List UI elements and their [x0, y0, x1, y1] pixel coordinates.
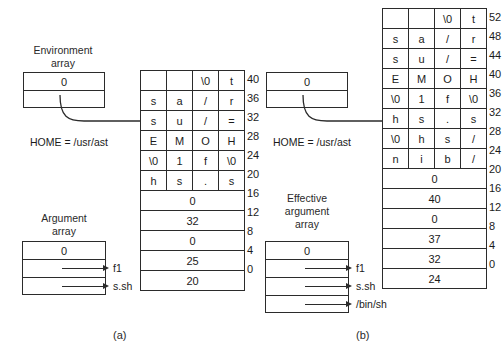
mem-char-cell: a	[409, 29, 435, 49]
offset-value: 28	[489, 122, 501, 141]
mem-char-cell: \0	[193, 71, 219, 91]
mem-char-cell: s	[167, 171, 193, 191]
mem-char-cell: E	[383, 69, 409, 89]
mem-char-cell: /	[435, 49, 461, 69]
arg-pointer-line-f1-a	[62, 268, 103, 269]
offset-value: 28	[247, 127, 259, 146]
figure-label-b: (b)	[356, 329, 369, 341]
mem-char-cell: t	[461, 9, 487, 29]
eff-arg-array-cell[interactable]: 0	[266, 242, 348, 260]
mem-char-cell: r	[219, 91, 245, 111]
mem-word-cell: 20	[141, 271, 245, 291]
mem-char-cell	[141, 71, 167, 91]
mem-char-cell: h	[409, 129, 435, 149]
offset-value: 0	[489, 255, 501, 274]
mem-word-cell: 0	[383, 209, 487, 229]
mem-char-cell: b	[435, 149, 461, 169]
figure-label-a: (a)	[113, 329, 126, 341]
mem-char-cell: .	[193, 171, 219, 191]
table-row: 40	[383, 189, 487, 209]
eff-arg-pointer-line-ssh-b	[305, 286, 346, 287]
eff-arg-pointer-arrowhead-f1-b	[346, 265, 352, 271]
table-row: E M O H	[383, 69, 487, 89]
mem-word-cell: 24	[383, 269, 487, 289]
mem-char-cell: \0	[219, 151, 245, 171]
mem-char-cell: H	[461, 69, 487, 89]
mem-char-cell: =	[219, 111, 245, 131]
mem-word-cell: 0	[383, 169, 487, 189]
arg-array-cell[interactable]	[23, 278, 105, 296]
table-row: s u / =	[141, 111, 245, 131]
mem-char-cell: u	[409, 49, 435, 69]
offset-value: 12	[247, 203, 259, 222]
mem-word-cell: 0	[141, 191, 245, 211]
mem-word-cell: 37	[383, 229, 487, 249]
mem-char-cell: /	[461, 129, 487, 149]
mem-char-cell: M	[409, 69, 435, 89]
offset-value: 24	[247, 146, 259, 165]
arg-array-cell[interactable]: 0	[23, 242, 105, 260]
mem-char-cell: i	[409, 149, 435, 169]
table-row: 0	[383, 169, 487, 189]
mem-char-cell: n	[383, 149, 409, 169]
eff-arg-pointer-arrowhead-binsh-b	[346, 301, 352, 307]
table-row: 37	[383, 229, 487, 249]
table-row: n i b /	[383, 149, 487, 169]
mem-char-cell: s	[409, 109, 435, 129]
env-pointer-label-a: HOME = /usr/ast	[30, 136, 108, 148]
mem-char-cell	[383, 9, 409, 29]
table-row: E M O H	[141, 131, 245, 151]
mem-char-cell: 1	[167, 151, 193, 171]
mem-char-cell: \0	[383, 89, 409, 109]
mem-char-cell: H	[219, 131, 245, 151]
eff-arg-array-cell[interactable]	[266, 260, 348, 278]
mem-char-cell: .	[435, 109, 461, 129]
offset-value: 8	[247, 222, 259, 241]
arg-array-title-a: Argument array	[22, 212, 106, 238]
env-array-cell[interactable]: 0	[24, 73, 104, 91]
offset-value: 8	[489, 217, 501, 236]
table-row: 32	[383, 249, 487, 269]
arg-pointer-label-f1-a: f1	[113, 262, 122, 274]
mem-char-cell: /	[193, 91, 219, 111]
offset-value: 16	[247, 184, 259, 203]
env-array-cell[interactable]: 0	[267, 73, 347, 91]
arg-pointer-label-ssh-a: s.sh	[113, 280, 132, 292]
table-row: 0	[141, 231, 245, 251]
memory-table-b-body: \0 t s a / r s u / = E M O H \0 1 f \0 h	[383, 9, 487, 289]
offset-value: 36	[489, 84, 501, 103]
mem-char-cell: M	[167, 131, 193, 151]
mem-char-cell: h	[141, 171, 167, 191]
arg-pointer-arrowhead-f1-a	[103, 265, 109, 271]
mem-char-cell: s	[141, 111, 167, 131]
eff-arg-pointer-label-binsh-b: /bin/sh	[356, 298, 387, 310]
mem-char-cell: f	[435, 89, 461, 109]
table-row: 0	[141, 191, 245, 211]
offset-value: 40	[489, 65, 501, 84]
offset-value: 32	[247, 108, 259, 127]
mem-char-cell: \0	[141, 151, 167, 171]
table-row: s u / =	[383, 49, 487, 69]
eff-arg-pointer-line-f1-b	[305, 268, 346, 269]
mem-char-cell: 1	[409, 89, 435, 109]
mem-char-cell: \0	[383, 129, 409, 149]
table-row: \0 t	[383, 9, 487, 29]
offset-value: 44	[489, 46, 501, 65]
mem-char-cell	[167, 71, 193, 91]
arg-pointer-arrowhead-ssh-a	[103, 283, 109, 289]
memory-table-a: \0 t s a / r s u / = E M O H \0 1 f \0 h	[140, 70, 245, 291]
table-row: \0 1 f \0	[383, 89, 487, 109]
mem-char-cell: O	[193, 131, 219, 151]
mem-char-cell: O	[435, 69, 461, 89]
eff-arg-array-cell[interactable]	[266, 296, 348, 314]
table-row: h s . s	[141, 171, 245, 191]
memory-offsets-b: 52 48 44 40 36 32 28 24 20 16 12 8 4 0	[489, 8, 501, 274]
eff-arg-array-box-b[interactable]: 0	[265, 241, 349, 313]
offset-value: 20	[247, 165, 259, 184]
table-row: 32	[141, 211, 245, 231]
mem-char-cell: \0	[461, 89, 487, 109]
eff-arg-array-cell[interactable]	[266, 278, 348, 296]
table-row: \0 t	[141, 71, 245, 91]
mem-char-cell	[409, 9, 435, 29]
arg-array-cell[interactable]	[23, 260, 105, 278]
